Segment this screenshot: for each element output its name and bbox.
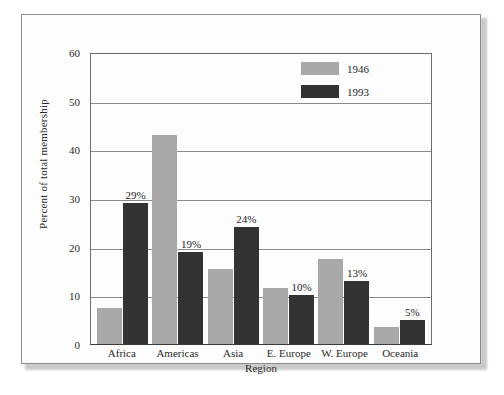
bar-asia-1993: 24% [234, 227, 259, 344]
bar-w-europe-1946 [318, 259, 343, 344]
legend-swatch-1993 [301, 85, 339, 98]
bar-oceania-1993: 5% [400, 320, 425, 344]
legend-swatch-1946 [301, 62, 339, 75]
bar-e-europe-1946 [263, 288, 288, 344]
x-axis-tick-label: Africa [94, 347, 150, 359]
bar-value-label: 13% [347, 267, 367, 279]
y-axis-tick-label: 30 [22, 193, 80, 205]
legend-entry: 1946 [301, 62, 369, 75]
bar-oceania-1946 [374, 327, 399, 344]
legend-label: 1946 [347, 63, 369, 75]
y-axis-tick-label: 50 [22, 96, 80, 108]
bar-americas-1993: 19% [178, 252, 203, 344]
bar-value-label: 10% [292, 281, 312, 293]
bar-africa-1946 [97, 308, 122, 345]
bar-americas-1946 [152, 135, 177, 344]
bar-asia-1946 [208, 269, 233, 344]
bar-value-label: 24% [236, 213, 256, 225]
x-axis-tick-label: W. Europe [317, 347, 373, 359]
figure-frame: 0102030405060 Percent of total membershi… [21, 14, 481, 364]
chart-screenshot: 0102030405060 Percent of total membershi… [0, 0, 504, 395]
y-axis-tick-label: 40 [22, 144, 80, 156]
bar-w-europe-1993: 13% [344, 281, 369, 344]
y-axis-tick-label: 60 [22, 47, 80, 59]
bar-groups: 29%19%24%10%13%5% [91, 54, 431, 344]
y-axis-tick-label: 10 [22, 290, 80, 302]
x-axis-tick-label: Asia [205, 347, 261, 359]
y-axis-title: Percent of total membership [37, 49, 49, 279]
y-axis-tick-label: 20 [22, 242, 80, 254]
x-axis-tick-label: Oceania [372, 347, 428, 359]
bar-group: 5% [372, 54, 427, 344]
x-axis-tick-label: Americas [150, 347, 206, 359]
plot-area: 29%19%24%10%13%5% 19461993 [90, 53, 432, 345]
bar-group: 29% [95, 54, 150, 344]
x-axis-tick-label: E. Europe [261, 347, 317, 359]
bar-value-label: 5% [405, 306, 420, 318]
y-axis-tick-label: 0 [22, 339, 80, 351]
bar-value-label: 29% [126, 189, 146, 201]
legend-entry: 1993 [301, 85, 369, 98]
chart-legend: 19461993 [301, 62, 369, 98]
y-axis-tick-labels: 0102030405060 [22, 15, 90, 345]
bar-group: 19% [150, 54, 205, 344]
bar-e-europe-1993: 10% [289, 295, 314, 344]
bar-group: 24% [206, 54, 261, 344]
bar-africa-1993: 29% [123, 203, 148, 344]
bar-value-label: 19% [181, 238, 201, 250]
x-axis-title: Region [90, 362, 432, 374]
x-axis-tick-labels: AfricaAmericasAsiaE. EuropeW. EuropeOcea… [90, 347, 432, 359]
legend-label: 1993 [347, 86, 369, 98]
